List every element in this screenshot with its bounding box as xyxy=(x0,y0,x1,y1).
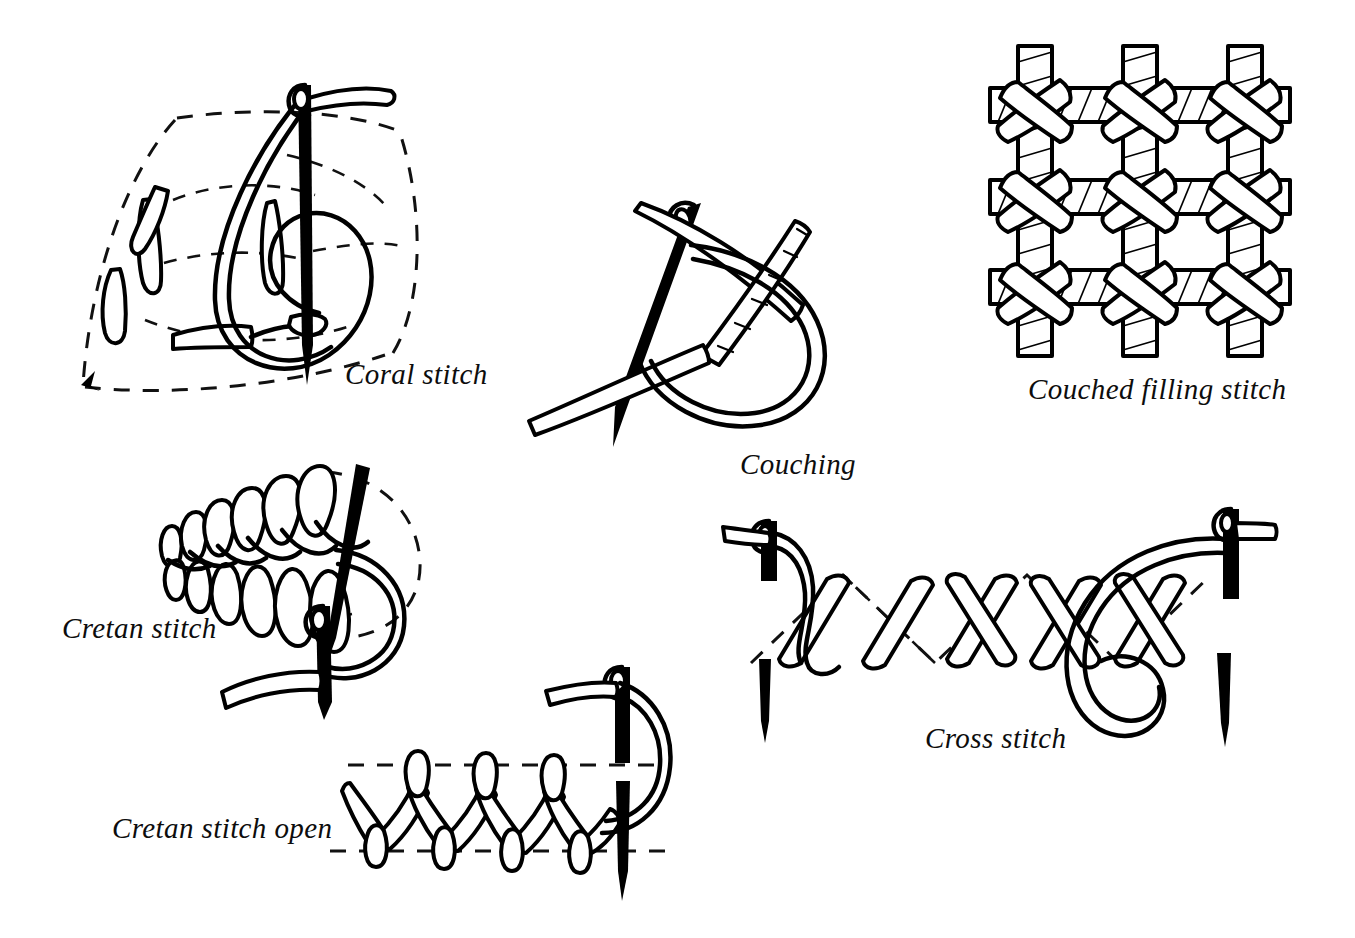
cretan-open-bottom-loop xyxy=(365,825,387,867)
cretan-open-bottom-loop xyxy=(501,829,523,871)
cretan-stitch-open-drawing xyxy=(330,667,670,901)
caption-couched-filling-stitch: Couched filling stitch xyxy=(1028,373,1287,406)
cretan-open-zigzag xyxy=(342,751,620,873)
cretan-open-top-loop xyxy=(406,751,429,796)
caption-coral-stitch: Coral stitch xyxy=(345,358,488,391)
tacking-crosses xyxy=(997,80,1282,324)
cretan-thread-tail xyxy=(222,672,322,708)
coral-needle-eye-hole xyxy=(294,89,308,109)
cretan-open-thread-loop-inner xyxy=(606,697,660,821)
couching-drawing xyxy=(529,203,825,447)
cretan-open-bottom-loop xyxy=(433,827,455,869)
coral-knot-link-1 xyxy=(251,326,293,337)
coral-leaf-outline-right xyxy=(393,133,417,353)
cross-stitch-drawing xyxy=(723,509,1277,747)
coral-knot-stitch-3 xyxy=(131,187,168,254)
coral-leaf-outline-lower xyxy=(85,355,385,390)
figure-couching xyxy=(505,185,865,450)
cross-right-lower-needle xyxy=(1217,653,1231,747)
figure-couched-filling-stitch xyxy=(960,38,1310,363)
figure-cretan-stitch-open xyxy=(330,655,680,910)
cross-right-thread-tail xyxy=(1235,523,1277,539)
caption-cretan-stitch-open: Cretan stitch open xyxy=(112,812,332,845)
coral-thread-tail xyxy=(305,89,394,111)
cross-right-needle-eye-hole xyxy=(1221,514,1233,532)
coral-knot-stitch-1 xyxy=(103,269,126,343)
cretan-lower-needle-eye-hole xyxy=(312,610,326,630)
illustration-page: Coral stitch xyxy=(0,0,1355,938)
coral-needle xyxy=(298,85,313,385)
caption-couching: Couching xyxy=(740,448,856,481)
caption-cross-stitch: Cross stitch xyxy=(925,722,1067,755)
caption-cretan-stitch: Cretan stitch xyxy=(62,612,217,645)
cretan-open-bottom-loop xyxy=(569,831,591,873)
coral-inner-guide-4 xyxy=(313,244,405,251)
cross-left-lower-needle xyxy=(759,659,771,743)
cretan-open-top-loop xyxy=(542,755,565,800)
cretan-open-thread-tail xyxy=(546,682,618,705)
cretan-open-needle-lower xyxy=(616,781,630,901)
figure-coral-stitch xyxy=(55,55,475,405)
coral-stitch-drawing xyxy=(81,85,417,391)
couched-filling-drawing xyxy=(990,46,1290,356)
cretan-open-top-loop xyxy=(474,753,497,798)
